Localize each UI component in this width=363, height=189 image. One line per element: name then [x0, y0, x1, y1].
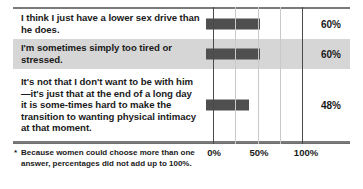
row-plot-area: [206, 69, 312, 141]
row-plot-area: [206, 9, 312, 39]
x-ticklabel-0: 0%: [207, 147, 221, 158]
x-ticklabel-100: 100%: [294, 147, 318, 158]
table-rows: I think I just have a lower sex drive th…: [13, 9, 350, 141]
row-label: I think I just have a lower sex drive th…: [13, 12, 206, 35]
table-row: It's not that I don't want to be with hi…: [13, 69, 350, 141]
row-plot-area: [206, 39, 312, 69]
row-value-label: 60%: [312, 49, 350, 60]
row-label: I'm sometimes simply too tired or stress…: [13, 42, 206, 65]
bar: [206, 100, 249, 111]
x-axis-line: [13, 143, 350, 144]
row-value-label: 60%: [312, 19, 350, 30]
table-row: I think I just have a lower sex drive th…: [13, 9, 350, 39]
bar: [206, 19, 260, 30]
footnote-marker: *: [14, 147, 17, 158]
chart-table: I think I just have a lower sex drive th…: [13, 7, 350, 143]
bar-chart-figure: I think I just have a lower sex drive th…: [0, 0, 363, 189]
bar: [206, 49, 260, 60]
x-ticklabel-50: 50%: [249, 147, 268, 158]
footnote-text: Because women could choose more than one…: [14, 147, 200, 170]
table-row: I'm sometimes simply too tired or stress…: [13, 39, 350, 69]
row-label: It's not that I don't want to be with hi…: [13, 76, 206, 134]
footnote: * Because women could choose more than o…: [14, 147, 200, 170]
row-value-label: 48%: [312, 100, 350, 111]
